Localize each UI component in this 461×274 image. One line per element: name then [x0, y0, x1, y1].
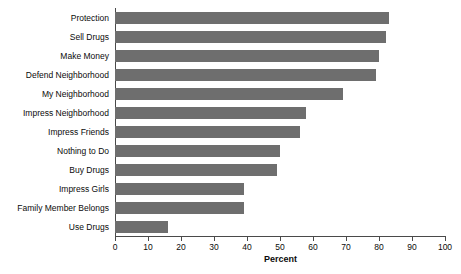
category-label: Impress Neighborhood — [0, 103, 112, 122]
bar — [115, 88, 343, 100]
category-label-text: Buy Drugs — [69, 165, 112, 175]
bar-row — [115, 46, 445, 65]
x-axis-tick — [346, 236, 347, 241]
category-label: Impress Girls — [0, 179, 112, 198]
category-label-text: Protection — [71, 13, 112, 23]
bar-row — [115, 8, 445, 27]
x-axis-tick-label: 70 — [331, 242, 361, 252]
x-axis-tick — [445, 236, 446, 241]
bar-row — [115, 217, 445, 236]
category-axis-labels: ProtectionSell DrugsMake MoneyDefend Nei… — [0, 8, 112, 236]
x-axis-tick — [181, 236, 182, 241]
x-axis-tick-label: 80 — [364, 242, 394, 252]
category-label: Sell Drugs — [0, 27, 112, 46]
bar — [115, 164, 277, 176]
x-axis-tick — [247, 236, 248, 241]
category-label: Impress Friends — [0, 122, 112, 141]
bar-row — [115, 141, 445, 160]
bar — [115, 221, 168, 233]
x-axis-tick-label: 0 — [100, 242, 130, 252]
x-axis-tick — [412, 236, 413, 241]
bar — [115, 145, 280, 157]
x-axis-tick-label: 10 — [133, 242, 163, 252]
bar — [115, 50, 379, 62]
category-label-text: Defend Neighborhood — [26, 70, 112, 80]
category-label-text: Sell Drugs — [70, 32, 112, 42]
category-label-text: Use Drugs — [69, 222, 112, 232]
category-label: Defend Neighborhood — [0, 65, 112, 84]
x-axis-tick — [379, 236, 380, 241]
bar-chart: ProtectionSell DrugsMake MoneyDefend Nei… — [0, 0, 461, 274]
bar — [115, 107, 306, 119]
bar — [115, 69, 376, 81]
x-axis-tick — [214, 236, 215, 241]
bar — [115, 183, 244, 195]
category-label: Family Member Belongs — [0, 198, 112, 217]
category-label: My Neighborhood — [0, 84, 112, 103]
x-axis-tick — [115, 236, 116, 241]
x-axis-tick-label: 50 — [265, 242, 295, 252]
bar-row — [115, 160, 445, 179]
category-label-text: Nothing to Do — [57, 146, 112, 156]
bar — [115, 31, 386, 43]
bar-row — [115, 84, 445, 103]
x-axis-tick-label: 30 — [199, 242, 229, 252]
x-axis-title: Percent — [115, 254, 446, 264]
category-label-text: Make Money — [60, 51, 112, 61]
bar-row — [115, 65, 445, 84]
bar — [115, 202, 244, 214]
plot-area — [115, 8, 445, 236]
x-axis-tick-label: 90 — [397, 242, 427, 252]
bar-row — [115, 122, 445, 141]
category-label-text: Impress Friends — [48, 127, 112, 137]
x-axis-tick — [313, 236, 314, 241]
category-label-text: Family Member Belongs — [17, 203, 112, 213]
bar-row — [115, 179, 445, 198]
x-axis-tick-label: 100 — [430, 242, 460, 252]
x-axis-tick-label: 40 — [232, 242, 262, 252]
category-label-text: Impress Girls — [59, 184, 112, 194]
category-label: Make Money — [0, 46, 112, 65]
category-label: Use Drugs — [0, 217, 112, 236]
category-label-text: My Neighborhood — [42, 89, 112, 99]
x-axis-tick-label: 60 — [298, 242, 328, 252]
x-axis-tick-label: 20 — [166, 242, 196, 252]
category-label: Nothing to Do — [0, 141, 112, 160]
category-label: Buy Drugs — [0, 160, 112, 179]
x-axis-tick — [280, 236, 281, 241]
category-label-text: Impress Neighborhood — [23, 108, 112, 118]
bar — [115, 12, 389, 24]
bar-row — [115, 27, 445, 46]
bar — [115, 126, 300, 138]
bar-row — [115, 103, 445, 122]
x-axis-tick — [148, 236, 149, 241]
category-label: Protection — [0, 8, 112, 27]
bar-row — [115, 198, 445, 217]
